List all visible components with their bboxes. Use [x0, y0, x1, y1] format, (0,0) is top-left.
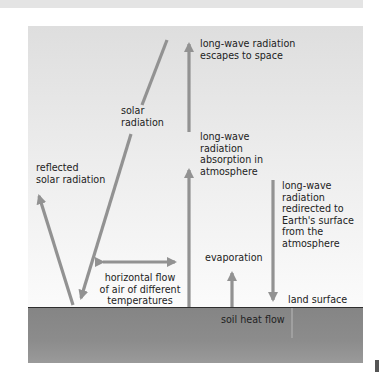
reflected-solar-arrow — [39, 196, 73, 305]
label-soil-heat-flow: soil heat flow — [221, 314, 285, 326]
label-absorption: long-wave radiation absorption in atmosp… — [200, 131, 263, 177]
label-redirected: long-wave radiation redirected to Earth'… — [282, 180, 354, 249]
label-reflected-solar: reflected solar radiation — [36, 162, 105, 185]
label-horizontal-flow: horizontal flow of air of different temp… — [91, 272, 189, 307]
label-land-surface: land surface — [288, 294, 347, 306]
solar-radiation-arrow-upper — [142, 40, 167, 105]
label-solar-radiation: solar radiation — [121, 105, 164, 128]
label-escapes-to-space: long-wave radiation escapes to space — [200, 38, 295, 61]
label-evaporation: evaporation — [205, 252, 263, 264]
